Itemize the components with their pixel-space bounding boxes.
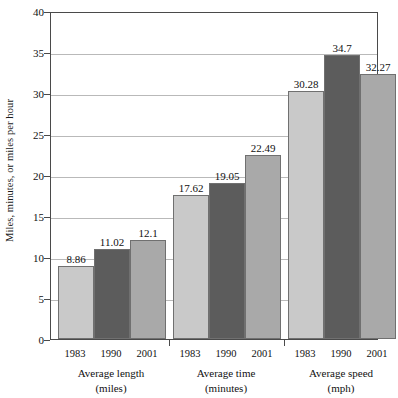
bar <box>245 155 281 339</box>
x-axis-year-label: 2001 <box>137 348 158 359</box>
bar <box>94 249 130 339</box>
y-axis-title-text: Miles, minutes, or miles per hour <box>4 99 15 242</box>
bar-value-label: 11.02 <box>100 236 124 248</box>
y-axis-tick-label: 35 <box>18 47 44 59</box>
x-axis-category-label: Average length(miles) <box>78 366 145 395</box>
x-axis-year-label: 1983 <box>295 348 316 359</box>
bar-value-label: 34.7 <box>332 42 351 54</box>
y-axis-tick-label: 40 <box>18 6 44 18</box>
bar-value-label: 22.49 <box>251 142 276 154</box>
y-axis-tick-mark <box>44 340 50 341</box>
y-axis-tick-label: 5 <box>18 293 44 305</box>
bar-chart: Miles, minutes, or miles per hour 051015… <box>0 0 398 398</box>
bar-value-label: 17.62 <box>179 182 204 194</box>
bar-value-label: 30.28 <box>294 78 319 90</box>
bar-value-label: 8.86 <box>66 253 85 265</box>
x-axis-year-label: 1990 <box>101 348 122 359</box>
bar-value-label: 32.27 <box>366 61 391 73</box>
x-axis-year-label: 1990 <box>216 348 237 359</box>
bar <box>288 91 324 339</box>
x-axis-year-label: 1983 <box>65 348 86 359</box>
bar <box>130 240 166 339</box>
x-axis-separator-tick <box>169 340 170 346</box>
bar-value-label: 19.05 <box>215 170 240 182</box>
x-axis-year-label: 2001 <box>367 348 388 359</box>
bar-value-label: 12.1 <box>138 227 157 239</box>
bar <box>324 55 360 340</box>
y-axis-tick-label: 15 <box>18 211 44 223</box>
x-axis-separator-tick <box>284 340 285 346</box>
plot-area: 8.8611.0212.117.6219.0522.4930.2834.732.… <box>50 12 378 340</box>
y-axis-tick-label: 25 <box>18 129 44 141</box>
x-axis-year-label: 1990 <box>331 348 352 359</box>
y-axis-tick-label: 10 <box>18 252 44 264</box>
bar <box>209 183 245 339</box>
x-axis-year-label: 2001 <box>252 348 273 359</box>
y-axis-tick-label: 0 <box>18 334 44 346</box>
bar <box>360 74 396 339</box>
y-axis-title: Miles, minutes, or miles per hour <box>0 0 18 340</box>
bar <box>58 266 94 339</box>
x-axis-category-label: Average time(minutes) <box>197 366 256 395</box>
x-axis-year-label: 1983 <box>180 348 201 359</box>
bar <box>173 195 209 340</box>
y-axis-tick-label: 20 <box>18 170 44 182</box>
y-axis-tick-label: 30 <box>18 88 44 100</box>
x-axis-category-label: Average speed(mph) <box>309 366 373 395</box>
